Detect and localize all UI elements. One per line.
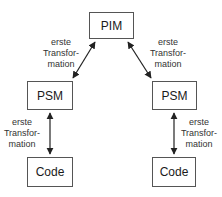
psm-right-node-label: PSM [161, 89, 187, 103]
code-right-node: Code [152, 157, 196, 187]
label-line: Transfor- [176, 128, 222, 139]
edge-label-pim-psm-left: erste Transfor- mation [38, 37, 84, 70]
pim-node: PIM [89, 12, 134, 39]
label-line: Transfor- [145, 48, 191, 59]
psm-right-node: PSM [152, 81, 197, 110]
label-line: mation [38, 59, 84, 70]
edge-label-psm-code-right: erste Transfor- mation [176, 117, 222, 150]
label-line: Transfor- [38, 48, 84, 59]
label-line: erste [38, 37, 84, 48]
psm-left-node-label: PSM [37, 89, 63, 103]
label-line: erste [0, 117, 44, 128]
edge-label-pim-psm-right: erste Transfor- mation [145, 37, 191, 70]
code-right-node-label: Code [160, 165, 189, 179]
psm-left-node: PSM [27, 81, 73, 110]
code-left-node-label: Code [36, 165, 65, 179]
label-line: erste [145, 37, 191, 48]
label-line: Transfor- [0, 128, 44, 139]
label-line: mation [176, 139, 222, 150]
edge-label-psm-code-left: erste Transfor- mation [0, 117, 44, 150]
label-line: erste [176, 117, 222, 128]
pim-node-label: PIM [101, 19, 122, 33]
label-line: mation [145, 59, 191, 70]
label-line: mation [0, 139, 44, 150]
code-left-node: Code [27, 157, 73, 187]
